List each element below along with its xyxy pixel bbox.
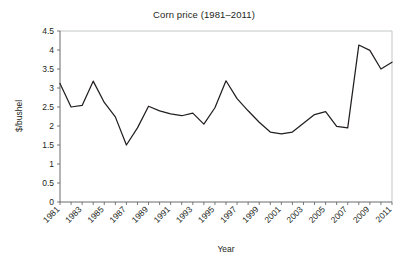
x-tick-label: 1993	[174, 204, 195, 225]
y-tick-label: 2.5	[42, 102, 54, 112]
y-tick-label: 3.5	[42, 64, 54, 74]
x-tick-label: 1983	[63, 204, 84, 225]
x-tick-label: 1991	[152, 204, 173, 225]
data-series-line	[60, 45, 392, 145]
y-tick-label: 2	[49, 121, 54, 131]
x-tick-label: 2005	[307, 204, 328, 225]
y-axis-tick-labels: 00.511.522.533.544.5	[42, 26, 54, 207]
x-tick-label: 1981	[41, 204, 62, 225]
chart-figure: Corn price (1981–2011) 00.511.522.533.54…	[0, 0, 408, 261]
y-tick-label: 4	[49, 45, 54, 55]
y-tick-label: 1	[49, 159, 54, 169]
x-tick-label: 1999	[240, 204, 261, 225]
x-tick-label: 2011	[373, 204, 393, 224]
y-tick-label: 0.5	[42, 178, 54, 188]
y-tick-label: 3	[49, 83, 54, 93]
x-tick-label: 2001	[262, 204, 283, 225]
x-tick-label: 1997	[218, 204, 239, 225]
x-tick-label: 1987	[107, 204, 128, 225]
x-tick-label: 2009	[351, 204, 372, 225]
x-tick-label: 1995	[196, 204, 217, 225]
x-axis-tick-labels: 1981198319851987198919911993199519971999…	[41, 204, 394, 225]
x-tick-label: 2003	[284, 204, 305, 225]
chart-plot-area: 00.511.522.533.544.5 1981198319851987198…	[0, 0, 408, 261]
plot-frame	[60, 31, 392, 202]
x-tick-label: 1985	[85, 204, 106, 225]
y-axis-title: $/bushel	[14, 100, 24, 132]
y-tick-label: 1.5	[42, 140, 54, 150]
x-tick-label: 1989	[129, 204, 150, 225]
x-axis-title: Year	[217, 244, 234, 254]
x-tick-label: 2007	[329, 204, 350, 225]
y-tick-label: 4.5	[42, 26, 54, 36]
